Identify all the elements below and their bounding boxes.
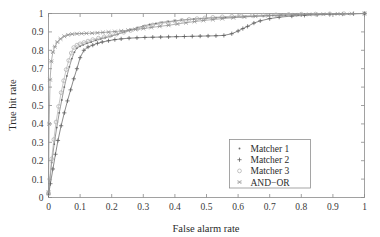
x-tick-label: 0.7 (264, 202, 276, 212)
series-markers (47, 12, 367, 196)
x-tick-label: 0.6 (232, 202, 244, 212)
x-tick-label: 0.1 (74, 202, 86, 212)
chart-legend: Matcher 1Matcher 2Matcher 3AND−OR (230, 140, 311, 189)
series-3 (47, 12, 367, 196)
legend-label: Matcher 1 (251, 144, 290, 154)
y-tick-label: 0.4 (32, 119, 44, 129)
x-tick-label: 0.5 (201, 202, 213, 212)
y-tick-label: 0.1 (32, 175, 44, 185)
x-tick-label: 0.3 (137, 202, 149, 212)
x-tick-label: 0.2 (106, 202, 118, 212)
y-tick-label: 0.3 (32, 138, 44, 148)
roc-chart-figure: 00.10.20.30.40.50.60.70.80.91 00.10.20.3… (0, 0, 380, 237)
y-tick-label: 1 (39, 9, 44, 19)
y-tick-label: 0 (39, 193, 44, 203)
y-tick-label: 0.7 (32, 64, 44, 74)
y-tick-label: 0.6 (32, 83, 44, 93)
x-axis-title: False alarm rate (172, 223, 239, 234)
data-series-layer (46, 11, 366, 196)
x-tick-label: 1 (362, 202, 367, 212)
legend-label: Matcher 2 (251, 155, 290, 165)
y-tick-label: 0.2 (32, 156, 44, 166)
legend-marker-dot-icon (239, 148, 241, 150)
series-1 (48, 13, 366, 195)
legend-label: Matcher 3 (251, 166, 290, 176)
chart-canvas: 00.10.20.30.40.50.60.70.80.91 00.10.20.3… (0, 0, 380, 237)
x-tick-label: 0.4 (169, 202, 181, 212)
y-tick-label: 0.5 (32, 101, 44, 111)
y-tick-label: 0.8 (32, 46, 44, 56)
x-tick-label: 0.9 (327, 202, 339, 212)
x-axis-tick-labels: 00.10.20.30.40.50.60.70.80.91 (46, 202, 367, 212)
series-markers (48, 13, 366, 195)
y-axis-tick-labels: 00.10.20.30.40.50.60.70.80.91 (32, 9, 44, 203)
legend-label: AND−OR (251, 178, 291, 188)
y-axis-title: True hit rate (7, 79, 18, 131)
x-tick-label: 0.8 (295, 202, 307, 212)
x-tick-label: 0 (46, 202, 51, 212)
y-tick-label: 0.9 (32, 27, 44, 37)
